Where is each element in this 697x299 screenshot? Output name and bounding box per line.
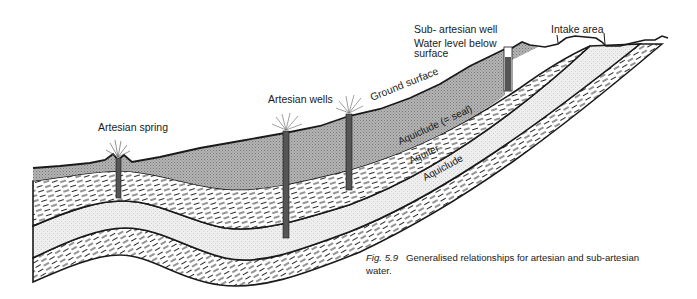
label-artesian-spring: Artesian spring bbox=[98, 121, 168, 133]
caption-text: Generalised relationships for artesian a… bbox=[366, 252, 639, 276]
spring-spray-icon bbox=[106, 140, 130, 157]
well-2-spray-icon bbox=[336, 95, 363, 113]
artesian-well-1 bbox=[283, 131, 289, 238]
intake-marker-left bbox=[557, 35, 558, 43]
overburden-wedge bbox=[512, 42, 538, 60]
caption-number: Fig. 5.9 bbox=[366, 252, 398, 263]
label-sub-artesian-well: Sub- artesian well bbox=[414, 23, 497, 35]
label-artesian-wells: Artesian wells bbox=[268, 93, 333, 105]
label-intake-area: Intake area bbox=[551, 23, 604, 35]
artesian-spring-conduit bbox=[116, 158, 121, 198]
sub-artesian-water-column bbox=[505, 57, 511, 91]
well-1-spray-icon bbox=[272, 113, 302, 130]
figure-caption: Fig. 5.9 Generalised relationships for a… bbox=[366, 251, 666, 277]
label-water-level-2: surface bbox=[414, 47, 449, 59]
artesian-well-2 bbox=[346, 114, 352, 190]
intake-marker-right bbox=[604, 33, 605, 44]
